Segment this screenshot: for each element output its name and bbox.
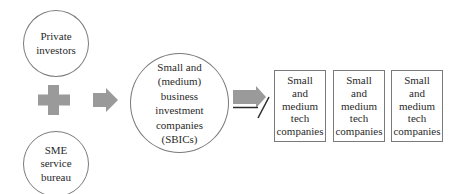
node-tech-company-2: Small and medium tech companies	[333, 70, 385, 142]
node-label: SME service bureau	[40, 144, 71, 185]
node-label: Small and medium tech companies	[393, 74, 440, 138]
node-private-investors: Private investors	[23, 10, 89, 77]
node-sme-service-bureau: SME service bureau	[23, 131, 89, 194]
node-label: Small and medium tech companies	[276, 74, 323, 138]
node-label: Private investors	[36, 30, 76, 57]
plus-icon	[38, 85, 70, 115]
node-label: Small and (medium) business investment c…	[155, 60, 203, 147]
node-label: Small and medium tech companies	[335, 74, 382, 138]
arrow-right-slash-icon	[233, 86, 273, 126]
node-tech-company-3: Small and medium tech companies	[391, 70, 443, 142]
arrow-right-icon	[93, 88, 118, 112]
node-sbics: Small and (medium) business investment c…	[130, 53, 229, 153]
node-tech-company-1: Small and medium tech companies	[274, 70, 326, 142]
